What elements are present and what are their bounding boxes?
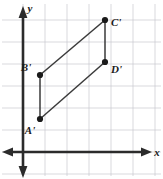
axis-label-group: y x xyxy=(26,2,161,158)
x-axis-arrow-right-icon xyxy=(141,148,152,157)
y-axis-arrow-down-icon xyxy=(19,166,28,178)
vertex-dot-c-prime xyxy=(102,17,108,23)
vertex-dot-a-prime xyxy=(37,116,43,122)
grid-group xyxy=(2,4,161,176)
vertex-label-d-prime: D' xyxy=(110,63,122,75)
quadrilateral-shape xyxy=(40,20,105,119)
vertex-label-c-prime: C' xyxy=(111,16,121,28)
x-axis xyxy=(2,148,152,157)
x-axis-label: x xyxy=(153,146,160,158)
vertex-label-b-prime: B' xyxy=(20,61,31,73)
edge-d-to-a xyxy=(40,62,105,119)
vertex-label-a-prime: A' xyxy=(24,124,35,136)
coordinate-plane-svg: A' B' C' D' y x xyxy=(0,0,163,179)
vertex-dot-d-prime xyxy=(102,59,108,65)
coordinate-plane-figure: A' B' C' D' y x xyxy=(0,0,163,179)
edge-b-to-c xyxy=(40,20,105,75)
x-axis-arrow-left-icon xyxy=(2,148,13,157)
y-axis-arrow-up-icon xyxy=(19,6,28,18)
y-axis-label: y xyxy=(26,2,33,14)
vertex-label-group: A' B' C' D' xyxy=(20,16,122,136)
vertex-dot-b-prime xyxy=(37,72,43,78)
